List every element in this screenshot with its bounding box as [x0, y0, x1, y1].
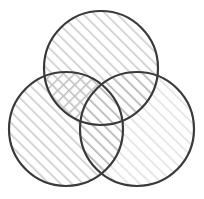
venn-diagram-figure [0, 0, 204, 199]
venn-diagram-svg [0, 0, 204, 199]
